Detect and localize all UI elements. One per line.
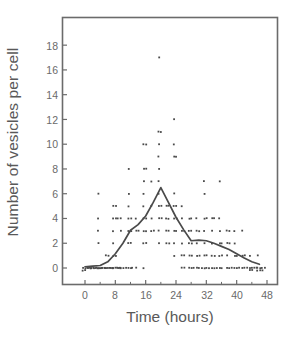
data-point <box>216 267 218 269</box>
data-point <box>165 230 167 232</box>
data-point <box>226 230 228 232</box>
data-point <box>253 267 255 269</box>
data-point <box>243 267 245 269</box>
data-point <box>234 243 236 245</box>
data-point <box>120 230 122 232</box>
data-point <box>150 230 152 232</box>
data-point <box>211 267 213 269</box>
scatter-points <box>82 57 266 272</box>
data-point <box>143 193 145 195</box>
chart-figure: Number of vesicles per cell Time (hours)… <box>0 0 300 340</box>
data-point <box>204 193 206 195</box>
data-point <box>219 180 221 182</box>
data-point <box>264 267 266 269</box>
data-point <box>241 267 243 269</box>
data-point <box>226 242 228 244</box>
data-point <box>123 267 125 269</box>
data-point <box>198 267 200 269</box>
data-point <box>109 267 111 269</box>
data-point <box>173 218 175 220</box>
data-point <box>112 267 114 269</box>
data-point <box>105 267 107 269</box>
data-point <box>173 144 175 146</box>
plot-canvas <box>0 0 300 340</box>
data-point <box>204 218 206 220</box>
data-point <box>98 242 100 244</box>
data-point <box>160 131 162 133</box>
data-point <box>85 267 87 269</box>
data-point <box>226 254 228 256</box>
data-point <box>226 267 228 269</box>
data-point <box>165 218 167 220</box>
data-point <box>151 218 153 220</box>
data-point <box>128 168 130 170</box>
data-point <box>153 230 155 232</box>
data-point <box>181 243 183 245</box>
data-point <box>193 267 195 269</box>
data-point <box>158 217 160 219</box>
data-point <box>256 267 258 269</box>
data-point <box>173 242 175 244</box>
data-point <box>107 267 109 269</box>
data-point <box>205 267 207 269</box>
data-point <box>105 254 107 256</box>
data-point <box>173 193 175 195</box>
data-point <box>158 131 160 133</box>
data-point <box>131 267 133 269</box>
data-point <box>191 255 193 257</box>
trend-line <box>85 188 259 267</box>
data-point <box>228 230 230 232</box>
data-point <box>158 230 160 232</box>
data-point <box>112 205 114 207</box>
data-point <box>157 156 159 158</box>
data-point <box>219 267 221 269</box>
data-point <box>160 205 162 207</box>
data-point <box>97 230 99 232</box>
data-point <box>257 254 259 256</box>
data-point <box>214 255 216 257</box>
data-point <box>261 267 263 269</box>
data-point <box>135 218 137 220</box>
data-point <box>233 267 235 269</box>
data-point <box>143 180 145 182</box>
data-point <box>145 230 147 232</box>
data-point <box>168 230 170 232</box>
data-point <box>183 254 185 256</box>
data-point <box>211 255 213 257</box>
data-point <box>219 230 221 232</box>
plot-frame <box>63 18 278 285</box>
data-point <box>116 267 118 269</box>
data-point <box>189 218 191 220</box>
data-point <box>249 255 251 257</box>
data-point <box>228 267 230 269</box>
data-point <box>117 218 119 220</box>
data-point <box>145 218 147 220</box>
data-point <box>112 242 114 244</box>
data-point <box>175 156 177 158</box>
data-point <box>204 255 206 257</box>
data-point <box>128 218 130 220</box>
data-point <box>181 267 183 269</box>
data-point <box>112 218 114 220</box>
data-point <box>115 267 117 269</box>
data-point <box>190 218 192 220</box>
data-point <box>142 242 144 244</box>
data-point <box>191 243 193 245</box>
data-point <box>199 255 201 257</box>
data-point <box>161 217 163 219</box>
data-point <box>128 193 130 195</box>
data-point <box>204 242 206 244</box>
data-point <box>82 267 84 269</box>
data-point <box>238 267 240 269</box>
data-point <box>158 143 160 145</box>
data-point <box>173 255 175 257</box>
data-point <box>251 267 253 269</box>
data-point <box>181 254 183 256</box>
data-point <box>173 230 175 232</box>
data-point <box>241 230 243 232</box>
data-point <box>165 242 167 244</box>
data-point <box>213 267 215 269</box>
data-point <box>196 230 198 232</box>
data-point <box>181 230 183 232</box>
data-point <box>249 269 251 271</box>
